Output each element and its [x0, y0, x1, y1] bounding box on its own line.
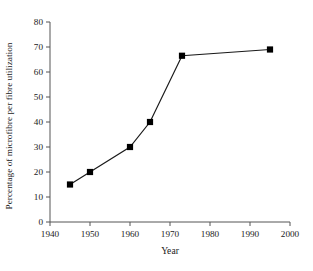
caption-sliver — [4, 263, 154, 271]
data-point-marker — [87, 169, 93, 175]
y-tick-label: 60 — [34, 67, 44, 77]
data-point-marker — [267, 46, 273, 52]
figure-container: Percentage of microfibre per fibre utili… — [0, 0, 313, 271]
y-tick-label: 30 — [34, 142, 44, 152]
data-point-marker — [67, 181, 73, 187]
x-tick-label: 1940 — [41, 229, 60, 239]
line-chart-plot: 01020304050607080 1940195019601970198019… — [0, 0, 313, 271]
x-tick-label: 1990 — [241, 229, 260, 239]
x-tick-label: 1970 — [161, 229, 180, 239]
x-tick-label: 1960 — [121, 229, 140, 239]
y-tick-label: 50 — [34, 92, 44, 102]
x-axis-ticks: 1940195019601970198019902000 — [41, 222, 300, 239]
y-axis-ticks: 01020304050607080 — [34, 17, 50, 227]
data-point-marker — [179, 53, 185, 59]
x-axis-label: Year — [50, 245, 290, 256]
y-tick-label: 20 — [34, 167, 44, 177]
y-tick-label: 80 — [34, 17, 44, 27]
y-tick-label: 40 — [34, 117, 44, 127]
y-tick-label: 70 — [34, 42, 44, 52]
x-tick-label: 1980 — [201, 229, 220, 239]
y-tick-label: 10 — [34, 192, 44, 202]
y-tick-label: 0 — [38, 217, 43, 227]
data-point-marker — [147, 119, 153, 125]
x-tick-label: 1950 — [81, 229, 100, 239]
data-line — [70, 50, 270, 185]
data-point-marker — [127, 144, 133, 150]
x-tick-label: 2000 — [281, 229, 300, 239]
